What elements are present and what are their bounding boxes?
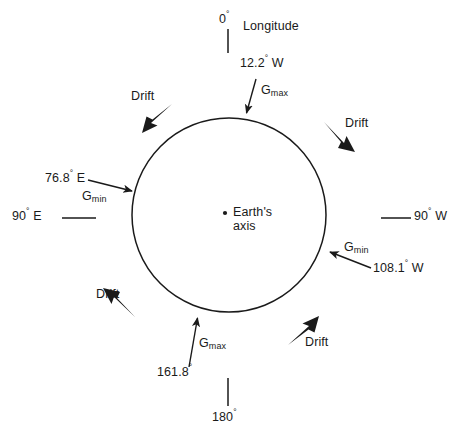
label-drift-top-left: Drift bbox=[131, 90, 154, 103]
earth-drift-diagram: 0° Longitude 12.2° W Gmax Drift Drift 76… bbox=[0, 0, 458, 436]
label-earth-axis-line2: axis bbox=[233, 219, 256, 233]
gmax-bottom-arrow bbox=[189, 318, 198, 367]
gmax-top-arrow bbox=[247, 79, 257, 113]
label-earth-axis-line1: Earth's bbox=[233, 205, 272, 219]
label-meridian-180: 180° bbox=[212, 411, 237, 424]
label-drift-bottom-left: Drift bbox=[96, 288, 119, 301]
label-gmin-right-symbol: Gmin bbox=[344, 241, 369, 255]
label-gmin-left-longitude: 76.8° E bbox=[45, 172, 85, 185]
earth-circle bbox=[132, 118, 326, 312]
label-gmax-bottom-longitude: 161.8° bbox=[157, 366, 192, 379]
label-meridian-0: 0° bbox=[219, 13, 230, 26]
earth-axis-dot bbox=[223, 211, 227, 215]
label-gmax-top-longitude: 12.2° W bbox=[240, 57, 284, 70]
label-drift-bottom-right: Drift bbox=[305, 336, 328, 349]
label-gmin-right-longitude: 108.1° W bbox=[373, 262, 424, 275]
drift-arrow-top-left bbox=[142, 104, 172, 133]
label-meridian-90w: 90° W bbox=[414, 210, 447, 223]
label-gmin-left-symbol: Gmin bbox=[82, 190, 107, 204]
label-longitude: Longitude bbox=[243, 20, 299, 33]
label-drift-top-right: Drift bbox=[345, 117, 368, 130]
label-gmax-top-symbol: Gmax bbox=[261, 84, 288, 98]
label-earth-axis: Earth's axis bbox=[233, 205, 293, 233]
label-meridian-90e: 90° E bbox=[12, 210, 42, 223]
label-gmax-bottom-symbol: Gmax bbox=[199, 337, 226, 351]
diagram-canvas bbox=[0, 0, 458, 436]
